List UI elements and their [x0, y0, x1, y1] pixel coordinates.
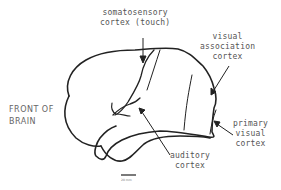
brain-outline — [68, 48, 216, 159]
scale-label: 20 mm — [121, 178, 132, 182]
label-visual-association: visual association cortex — [200, 32, 255, 62]
lateral-fissure — [113, 98, 140, 115]
label-somatosensory: somatosensory cortex (touch) — [100, 8, 170, 28]
brain-diagram — [0, 0, 281, 190]
association-boundary — [184, 75, 192, 130]
arrow-auditory — [142, 112, 170, 155]
arrow-visual-association — [214, 66, 229, 90]
label-auditory: auditory cortex — [170, 151, 210, 171]
label-primary-visual: primary visual cortex — [233, 119, 268, 149]
arrow-primary-visual — [217, 124, 233, 135]
frontal-lobe-lower — [65, 96, 101, 146]
central-sulcus — [115, 50, 154, 115]
label-front-of-brain: FRONT OF BRAIN — [9, 104, 54, 128]
